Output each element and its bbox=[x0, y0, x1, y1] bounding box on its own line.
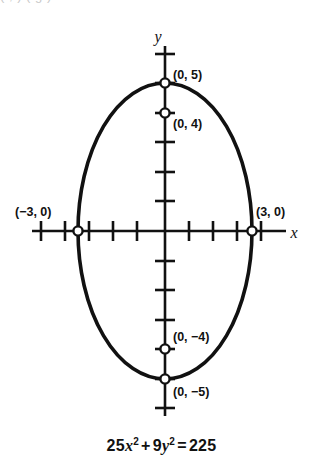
ellipse-graph-figure: y x (0, 5) (0, 4) (−3, 0) (3, 0) (0, −4)… bbox=[0, 0, 323, 473]
equation-caption: 25x2+9y2=225 bbox=[0, 436, 323, 455]
equation-equals-sign: = bbox=[175, 437, 189, 454]
label-point-0-neg4: (0, −4) bbox=[173, 330, 209, 344]
y-axis-label: y bbox=[152, 28, 162, 46]
point-marker-neg3-0 bbox=[73, 226, 82, 235]
label-point-3-0: (3, 0) bbox=[256, 205, 285, 219]
point-marker-0-neg5 bbox=[160, 374, 169, 383]
x-axis-label: x bbox=[289, 224, 297, 241]
label-point-0-4: (0, 4) bbox=[173, 117, 202, 131]
point-marker-0-neg4 bbox=[160, 344, 169, 353]
equation-var-x: x bbox=[125, 437, 133, 454]
point-marker-0-5 bbox=[160, 78, 169, 87]
equation-coef-y2: 9 bbox=[153, 437, 162, 454]
equation-rhs: 225 bbox=[189, 437, 217, 454]
label-point-neg3-0: (−3, 0) bbox=[15, 205, 51, 219]
figure-page: ( , ) ( g ) bbox=[0, 0, 323, 473]
equation-coef-x2: 25 bbox=[107, 437, 125, 454]
point-marker-0-4 bbox=[160, 108, 169, 117]
point-marker-3-0 bbox=[247, 226, 256, 235]
equation-plus-sign: + bbox=[139, 437, 153, 454]
label-point-0-neg5: (0, −5) bbox=[173, 385, 209, 399]
label-point-0-5: (0, 5) bbox=[173, 68, 202, 82]
